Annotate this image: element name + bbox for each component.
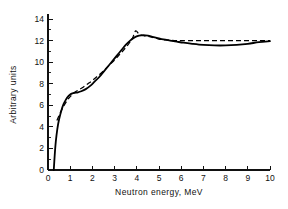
x-tick-label: 9 xyxy=(245,173,250,183)
series-path-solid-curve xyxy=(54,35,270,170)
y-tick-label: 10 xyxy=(35,57,45,67)
y-axis-title: Arbitrary units xyxy=(8,65,18,123)
x-axis-ticks: 012345678910 xyxy=(46,166,275,183)
y-tick-label: 12 xyxy=(35,36,45,46)
neutron-energy-line-chart: 02468101214 012345678910 Neutron energy,… xyxy=(0,0,288,209)
x-tick-label: 0 xyxy=(46,173,51,183)
y-tick-label: 4 xyxy=(39,122,44,132)
y-tick-label: 2 xyxy=(39,143,44,153)
x-axis-title: Neutron energy, MeV xyxy=(115,187,203,197)
x-tick-label: 5 xyxy=(157,173,162,183)
y-tick-label: 8 xyxy=(39,79,44,89)
x-tick-label: 7 xyxy=(201,173,206,183)
y-tick-label: 14 xyxy=(35,14,45,24)
y-tick-label: 0 xyxy=(39,165,44,175)
x-tick-label: 3 xyxy=(112,173,117,183)
x-tick-label: 10 xyxy=(265,173,275,183)
y-axis-ticks: 02468101214 xyxy=(35,14,53,175)
x-tick-label: 6 xyxy=(179,173,184,183)
y-tick-label: 6 xyxy=(39,100,44,110)
data-series-group xyxy=(54,31,270,170)
x-tick-label: 2 xyxy=(90,173,95,183)
x-tick-label: 4 xyxy=(134,173,139,183)
x-tick-label: 1 xyxy=(68,173,73,183)
x-tick-label: 8 xyxy=(223,173,228,183)
chart-figure: 02468101214 012345678910 Neutron energy,… xyxy=(0,0,288,209)
